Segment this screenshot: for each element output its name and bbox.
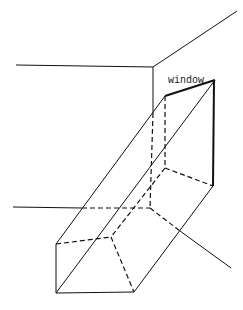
shaft-bottom-left-hidden: [111, 168, 165, 237]
shaft-bottom-right-edge: [134, 186, 213, 292]
window: window: [165, 75, 215, 186]
wall-corner-hidden: [150, 113, 153, 208]
window-right-edge: [213, 80, 214, 186]
floor-right-hidden: [150, 208, 180, 231]
floor-left-edge: [13, 207, 82, 208]
floor-right-edge: [180, 231, 231, 268]
room-corner-diagram: window: [0, 0, 243, 310]
shaft-top-left-edge: [56, 96, 165, 244]
shaft-top-right-edge: [56, 80, 215, 293]
window-label: window: [168, 75, 204, 86]
window-bottom-hidden: [165, 168, 213, 186]
ceiling-right-edge: [153, 11, 237, 67]
ceiling-left-edge: [16, 65, 153, 67]
patch-bottom-edge: [56, 292, 134, 293]
patch-top-hidden: [56, 237, 111, 244]
light-shaft: [56, 80, 215, 293]
patch-right-hidden: [111, 237, 134, 292]
room-edges: [13, 11, 237, 268]
